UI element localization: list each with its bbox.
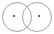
center-dot-left — [13, 15, 15, 17]
venn-diagram-canvas — [0, 0, 54, 34]
venn-diagram-svg — [0, 0, 54, 34]
center-dot-right — [38, 15, 40, 17]
